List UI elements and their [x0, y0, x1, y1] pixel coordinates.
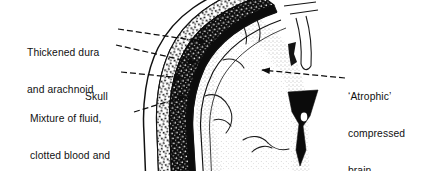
label-line: Mixture of fluid,	[30, 113, 114, 125]
label-line: clotted blood and	[30, 150, 114, 162]
label-line: Thickened dura	[27, 47, 99, 59]
parasagittal-vessel	[296, 16, 311, 70]
figure-container: Thickened dura and arachnoid Skull Mixtu…	[0, 0, 433, 171]
label-line: ‘Atrophic’	[348, 91, 405, 103]
label-line: compressed	[348, 128, 405, 140]
label-line: brain	[348, 165, 405, 171]
label-atrophic-compressed-brain: ‘Atrophic’ compressed brain	[348, 66, 405, 171]
label-mixture-of-fluid: Mixture of fluid, clotted blood and bloo…	[30, 88, 114, 171]
vault-cut-edge	[284, 2, 318, 14]
